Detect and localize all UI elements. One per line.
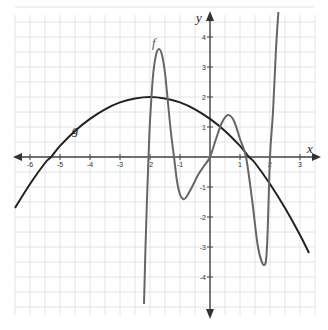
g-label: g	[72, 122, 79, 137]
x-tick-label: -6	[27, 161, 33, 168]
x-tick-label: 1	[238, 161, 242, 168]
y-axis-label: y	[194, 10, 202, 25]
y-tick-label: 2	[202, 94, 206, 101]
y-tick-label: 4	[202, 34, 206, 41]
x-tick-label: -4	[87, 161, 93, 168]
y-axis-up-arrow-icon	[206, 11, 214, 21]
y-tick-label: -2	[200, 214, 206, 221]
curve-f	[144, 12, 278, 304]
x-axis-left-arrow-icon	[13, 153, 22, 161]
y-tick-label: -3	[200, 244, 206, 251]
function-graph: -6-5-4-3-2-11234321-1-2-3-4 x y f g	[0, 0, 328, 330]
y-tick-label: 3	[202, 64, 206, 71]
x-tick-label: -1	[177, 161, 183, 168]
curve-g	[15, 97, 309, 253]
x-tick-label: -3	[117, 161, 123, 168]
x-tick-label: 3	[298, 161, 302, 168]
x-axis-right-arrow-icon	[312, 153, 321, 161]
x-axis-label: x	[306, 141, 313, 156]
y-axis-down-arrow-icon	[206, 309, 214, 319]
x-tick-label: -5	[57, 161, 63, 168]
y-tick-label: -4	[200, 274, 206, 281]
y-tick-label: 1	[202, 124, 206, 131]
y-tick-label: -1	[200, 184, 206, 191]
